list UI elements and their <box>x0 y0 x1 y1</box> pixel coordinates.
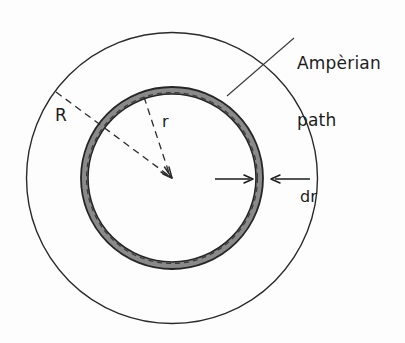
radius-r-dashed-line <box>144 97 169 173</box>
amperian-path-label: Ampèrian path <box>297 16 381 168</box>
figure-container: Ampèrian path R r dr <box>0 0 405 343</box>
amperian-label-leader-line <box>227 38 294 96</box>
amperian-path-label-line1: Ampèrian <box>297 54 381 73</box>
outer-radius-label: R <box>55 106 67 125</box>
amperian-path-label-line2: path <box>297 111 381 130</box>
radius-R-dashed-line <box>56 92 168 175</box>
inner-radius-label: r <box>162 113 169 131</box>
thickness-label: dr <box>300 188 317 206</box>
